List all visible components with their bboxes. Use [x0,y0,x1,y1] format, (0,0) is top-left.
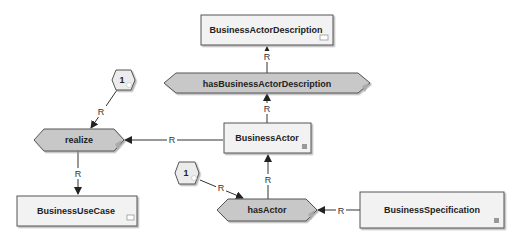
node-label: BusinessSpecification [384,205,480,215]
edge-label: R [98,107,105,117]
node-label: BusinessUseCase [37,206,115,216]
edge-label: R [265,175,272,185]
handle-icon [127,83,132,88]
object-icon [320,35,328,40]
node-label: 1 [119,75,124,85]
node-cardinality-bottom[interactable]: 1 [175,162,199,184]
edge-label: R [218,183,225,193]
node-has-actor[interactable]: hasActor [217,199,317,221]
handle-icon [192,176,197,181]
edge-label: R [169,135,176,145]
node-label: hasActor [247,205,287,215]
node-cardinality-top[interactable]: 1 [112,70,135,90]
node-business-actor[interactable]: BusinessActor [224,123,311,153]
node-has-business-actor-description[interactable]: hasBusinessActorDescription [164,73,370,93]
node-label: BusinessActorDescription [209,25,322,35]
node-label: BusinessActor [235,133,299,143]
node-realize[interactable]: realize [34,129,124,151]
node-business-specification[interactable]: BusinessSpecification [360,192,504,228]
diagram-canvas: R R R R R R R R BusinessActorDescription… [0,0,520,239]
edge-label: R [75,169,82,179]
node-label: hasBusinessActorDescription [203,79,332,89]
node-business-actor-description[interactable]: BusinessActorDescription [201,15,333,45]
edge-label: R [264,104,271,114]
edge-label: R [338,206,345,216]
object-icon [127,215,134,220]
node-label: 1 [183,168,188,178]
square-icon [494,218,499,223]
node-business-use-case[interactable]: BusinessUseCase [17,196,137,226]
node-label: realize [65,135,93,145]
square-icon [302,144,307,149]
edge-label: R [264,52,271,62]
